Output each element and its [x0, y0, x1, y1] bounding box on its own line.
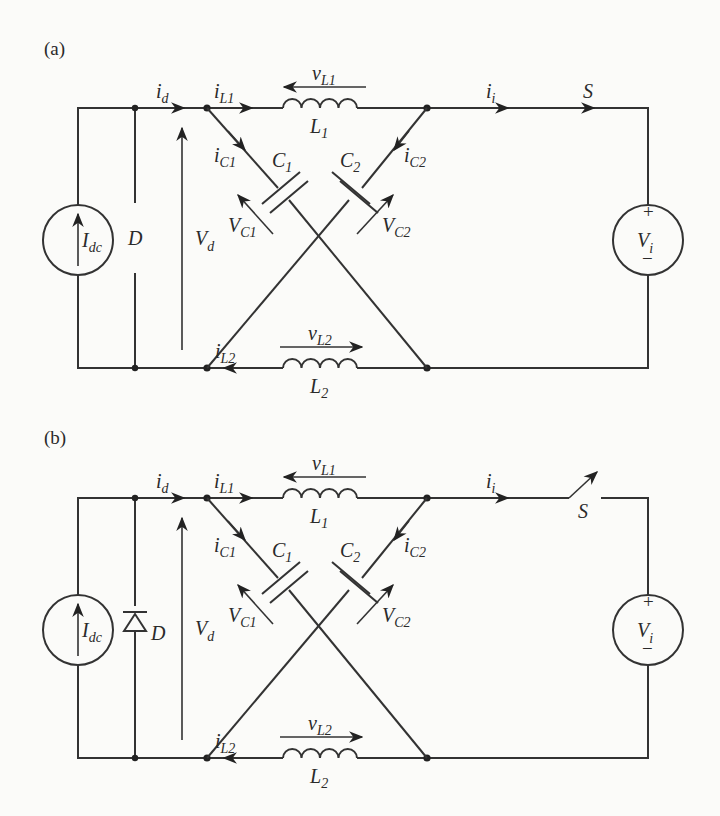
inductor-L1	[283, 489, 357, 498]
node	[132, 755, 138, 761]
inductor-L2	[283, 359, 357, 368]
label-VC2: VC2	[382, 214, 411, 240]
wire-left-bottom	[78, 665, 283, 758]
circuit-figure: (a)	[0, 0, 720, 816]
capacitor-C2-plate1	[332, 172, 370, 204]
label-id: id	[156, 80, 170, 106]
label-C1: C1	[272, 539, 292, 565]
label-iL2: iL2	[215, 730, 235, 756]
label-ii: ii	[486, 80, 496, 106]
label-iC1: iC1	[214, 144, 236, 170]
inductor-L2	[283, 749, 357, 758]
wire-bottom-right	[357, 665, 648, 758]
wire-left-bottom	[78, 275, 283, 368]
c2-branch-upper	[362, 108, 427, 188]
label-minus: −	[642, 638, 653, 659]
label-D: D	[150, 622, 166, 644]
label-L2: L2	[309, 765, 328, 791]
label-iL1: iL1	[214, 80, 234, 106]
label-C2: C2	[340, 149, 360, 175]
iC1-arrow	[228, 131, 245, 150]
inductor-L1	[283, 99, 357, 108]
label-S: S	[583, 80, 593, 102]
label-vL1: vL1	[312, 452, 336, 478]
panel-a: (a)	[43, 38, 683, 401]
node	[132, 365, 138, 371]
node	[132, 105, 138, 111]
label-L2: L2	[309, 375, 328, 401]
label-Idc: Idc	[81, 229, 103, 255]
iC1-arrow	[228, 521, 245, 540]
wire-switch-right	[601, 498, 648, 595]
capacitor-C2-plate1	[332, 562, 370, 594]
label-vL1: vL1	[312, 62, 336, 88]
label-Vd: Vd	[195, 617, 215, 644]
wire-switch-closed	[600, 108, 648, 205]
label-VC2: VC2	[382, 604, 411, 630]
label-iC1: iC1	[214, 534, 236, 560]
label-vL2: vL2	[308, 322, 332, 348]
label-Idc: Idc	[81, 619, 103, 645]
capacitor-C2-plate2	[340, 571, 378, 603]
label-Vd: Vd	[195, 227, 215, 254]
label-plus: +	[643, 201, 654, 222]
panel-label: (a)	[44, 38, 65, 60]
label-C2: C2	[340, 539, 360, 565]
label-id: id	[156, 470, 170, 496]
capacitor-C2-plate2	[340, 181, 378, 213]
label-iC2: iC2	[404, 534, 426, 560]
label-L1: L1	[309, 115, 328, 141]
label-D: D	[127, 227, 143, 249]
label-iL1: iL1	[214, 470, 234, 496]
label-plus: +	[643, 591, 654, 612]
panel-b: (b)	[43, 427, 683, 791]
wire-left-top	[78, 108, 283, 205]
diode-D	[123, 612, 147, 631]
label-VC1: VC1	[228, 604, 257, 630]
wire-left-top	[78, 498, 283, 595]
label-iL2: iL2	[215, 340, 235, 366]
label-iC2: iC2	[404, 144, 426, 170]
switch-open-blade	[569, 472, 597, 498]
wire-bottom-right	[357, 275, 648, 368]
label-minus: −	[642, 248, 653, 269]
panel-label: (b)	[44, 427, 66, 449]
label-VC1: VC1	[228, 214, 257, 240]
label-vL2: vL2	[308, 712, 332, 738]
label-C1: C1	[272, 149, 292, 175]
node	[132, 495, 138, 501]
label-ii: ii	[486, 470, 496, 496]
c2-branch-upper	[362, 498, 427, 578]
label-S: S	[578, 500, 588, 522]
label-L1: L1	[309, 505, 328, 531]
